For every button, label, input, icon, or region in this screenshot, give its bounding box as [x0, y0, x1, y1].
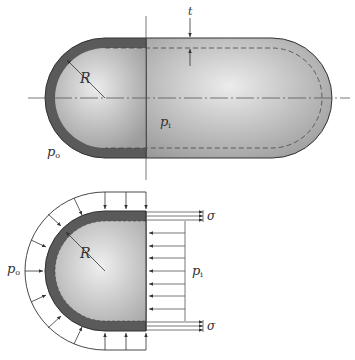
radius-label-top: R [79, 70, 91, 86]
capsule-top-view [28, 16, 350, 180]
inner-pressure-label-bottom: pi [192, 263, 203, 279]
stress-label-bottom: σ [207, 319, 216, 333]
stress-label-top: σ [207, 209, 216, 223]
inner-pressure-arrows [149, 221, 185, 321]
radius-label-bottom: R [79, 245, 91, 261]
thickness-label: t [188, 5, 193, 18]
pressure-vessel-diagram: t R pi po [0, 0, 355, 360]
outer-pressure-label-bottom: po [7, 261, 20, 277]
outer-pressure-label-top: po [47, 144, 60, 160]
half-capsule-free-body [25, 192, 203, 350]
